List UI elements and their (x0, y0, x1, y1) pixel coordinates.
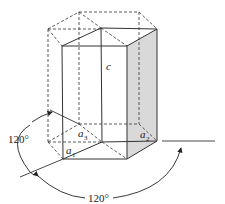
angle-left-label: 120° (8, 133, 29, 145)
c-axis-label: c (106, 60, 111, 72)
a1-axis-line (20, 159, 63, 177)
svg-text:1: 1 (72, 151, 76, 159)
svg-text:3: 3 (84, 134, 88, 142)
bottom-angle-arc (38, 176, 85, 198)
hexagonal-unit-cell-diagram: c a 1 a 2 a 3 120° 120° (0, 0, 225, 204)
angle-bottom-label: 120° (88, 192, 109, 204)
diagram-canvas: c a 1 a 2 a 3 120° 120° (0, 0, 225, 204)
svg-text:2: 2 (146, 135, 150, 143)
a3-axis-line (50, 110, 79, 124)
a3-label: a 3 (78, 127, 88, 142)
